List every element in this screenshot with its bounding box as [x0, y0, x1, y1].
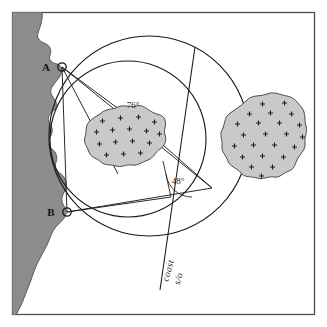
- navigation-chart-figure: A B 76° 48° coast s/o: [0, 0, 327, 327]
- station-label-a: A: [42, 61, 50, 73]
- station-label-b: B: [47, 206, 55, 218]
- angle-label-48: 48°: [172, 176, 185, 186]
- angle-label-76: 76°: [127, 100, 140, 110]
- chart-canvas: A B 76° 48° coast s/o: [0, 0, 327, 327]
